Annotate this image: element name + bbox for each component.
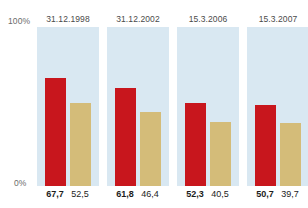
value-label-beige: 52,5: [64, 189, 96, 199]
value-label-beige: 46,4: [134, 189, 166, 199]
group-header-label: 15.3.2006: [169, 14, 247, 24]
bar-chart: 100% 0% 31.12.1998 67,7 52,5 31.12.2002 …: [0, 0, 308, 208]
bar-beige: [140, 112, 161, 186]
value-label-beige: 39,7: [274, 189, 306, 199]
bar-red: [45, 78, 66, 186]
group-header-label: 31.12.1998: [29, 14, 107, 24]
bar-red: [255, 105, 276, 186]
value-row: 50,7 39,7: [247, 189, 308, 203]
bars-container: [107, 27, 169, 186]
value-row: 61,8 46,4: [107, 189, 169, 203]
bar-group: 31.12.1998 67,7 52,5: [37, 27, 99, 186]
group-header-label: 15.3.2007: [239, 14, 308, 24]
bar-beige: [280, 123, 301, 186]
bars-container: [37, 27, 99, 186]
bars-container: [247, 27, 308, 186]
bar-red: [185, 103, 206, 186]
bar-group: 31.12.2002 61,8 46,4: [107, 27, 169, 186]
bar-beige: [210, 122, 231, 186]
value-row: 52,3 40,5: [177, 189, 239, 203]
bars-container: [177, 27, 239, 186]
value-label-beige: 40,5: [204, 189, 236, 199]
bar-group: 15.3.2007 50,7 39,7: [247, 27, 308, 186]
y-axis-min-label: 0%: [14, 178, 27, 188]
bar-red: [115, 88, 136, 186]
group-header-label: 31.12.2002: [99, 14, 177, 24]
value-row: 67,7 52,5: [37, 189, 99, 203]
bar-beige: [70, 103, 91, 186]
y-axis-max-label: 100%: [8, 16, 30, 26]
bar-group: 15.3.2006 52,3 40,5: [177, 27, 239, 186]
